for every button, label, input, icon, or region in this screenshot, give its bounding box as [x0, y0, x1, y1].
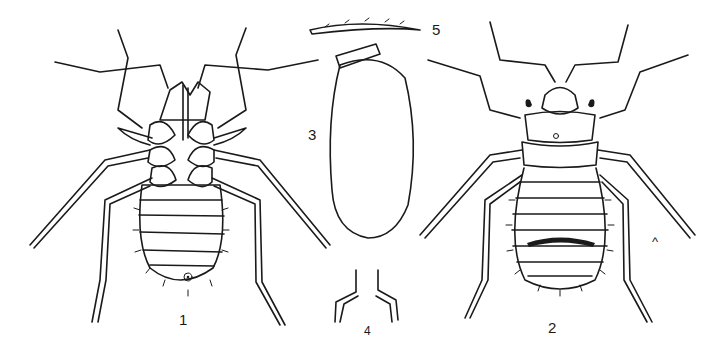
figure-label-4: 4 — [364, 325, 371, 337]
figure-plate — [0, 0, 717, 357]
figure-4-claws — [335, 270, 398, 322]
figure-2-dorsal-nymph — [420, 22, 695, 322]
figure-1-ventral-nymph — [30, 28, 330, 325]
figure-label-3: 3 — [308, 127, 316, 142]
figure-label-1: 1 — [179, 312, 187, 327]
figure-label-5: 5 — [432, 22, 440, 37]
figure-5-bristle — [310, 18, 420, 34]
figure-3-egg — [330, 44, 413, 238]
figure-label-2: 2 — [548, 320, 556, 335]
stray-mark: ^ — [652, 235, 658, 248]
